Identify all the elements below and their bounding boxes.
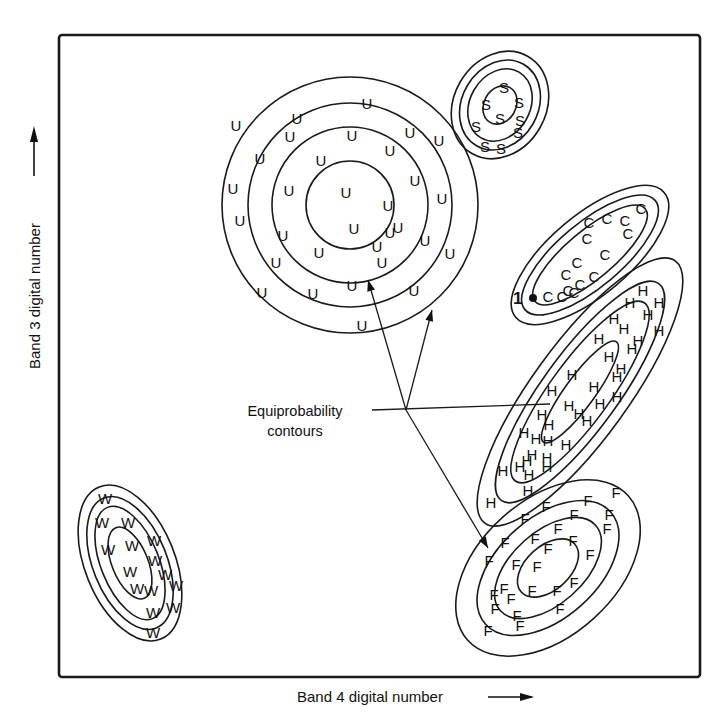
training-point: U <box>284 182 295 199</box>
training-point: F <box>530 530 539 547</box>
training-point: H <box>561 436 572 453</box>
training-point: C <box>572 254 583 271</box>
x-axis-label: Band 4 digital number <box>297 688 443 705</box>
training-point: C <box>563 282 574 299</box>
training-point: U <box>231 117 242 134</box>
training-point: U <box>434 132 445 149</box>
arrowhead-icon <box>367 280 375 292</box>
training-point: U <box>357 317 368 334</box>
training-point: H <box>594 330 605 347</box>
training-point: F <box>553 520 562 537</box>
training-point: F <box>541 498 550 515</box>
training-point: F <box>511 556 520 573</box>
training-point: S <box>471 118 481 135</box>
y-axis-label: Band 3 digital number <box>26 223 43 369</box>
training-point: F <box>490 600 499 617</box>
training-point: U <box>314 244 325 261</box>
training-point: H <box>498 462 509 479</box>
training-point: C <box>623 225 634 242</box>
training-point: F <box>500 534 509 551</box>
training-point: W <box>169 577 184 594</box>
training-point: S <box>481 96 491 113</box>
training-point: H <box>531 430 542 447</box>
training-point: U <box>362 95 373 112</box>
training-point: U <box>278 227 289 244</box>
x-axis-arrow-icon <box>488 693 534 701</box>
training-point: H <box>654 322 665 339</box>
training-point: U <box>410 172 421 189</box>
training-point: F <box>583 492 592 509</box>
x-axis: Band 4 digital number <box>297 688 534 705</box>
training-point: F <box>527 582 536 599</box>
training-point: F <box>515 617 524 634</box>
training-point: W <box>125 537 140 554</box>
cluster-sand: SSSSSSSSS <box>432 34 568 177</box>
training-point: F <box>483 622 492 639</box>
training-point: C <box>561 266 572 283</box>
training-point: C <box>584 214 595 231</box>
training-point: U <box>235 212 246 229</box>
training-point: H <box>604 348 615 365</box>
training-point: U <box>349 220 360 237</box>
training-point: S <box>480 138 490 155</box>
training-point: W <box>123 563 138 580</box>
equiprobability-contour <box>272 127 428 283</box>
training-point: C <box>575 276 586 293</box>
training-point: U <box>372 238 383 255</box>
cluster-water: WWWWWWWWWWWWWWW <box>58 470 203 656</box>
training-point: U <box>292 110 303 127</box>
training-point: H <box>595 395 606 412</box>
training-point: W <box>101 541 116 558</box>
training-point: U <box>308 285 319 302</box>
training-point: U <box>420 232 431 249</box>
training-point: F <box>484 552 493 569</box>
training-point: H <box>627 340 638 357</box>
leader-arrow <box>406 310 432 410</box>
training-point: W <box>146 624 161 641</box>
training-point: F <box>568 532 577 549</box>
training-point: W <box>98 490 113 507</box>
training-point: H <box>542 458 553 475</box>
training-point: H <box>543 432 554 449</box>
training-point: F <box>555 600 564 617</box>
training-point: U <box>257 284 268 301</box>
training-point: S <box>513 124 523 141</box>
training-point: S <box>496 140 506 157</box>
training-point: C <box>589 268 600 285</box>
training-point: H <box>625 294 636 311</box>
training-point: W <box>130 580 145 597</box>
scatter-diagram: UUUUUUUUUUUUUUUUUUUUUUUUUUUUUUUUSSSSSSSS… <box>0 0 724 720</box>
equiprobability-contour <box>476 498 619 637</box>
training-point: F <box>569 574 578 591</box>
training-point: W <box>146 604 161 621</box>
training-point: S <box>495 110 505 127</box>
y-axis: Band 3 digital number <box>26 126 43 369</box>
training-point: W <box>121 514 136 531</box>
annotation-label-line2: contours <box>267 423 323 439</box>
training-point: C <box>543 288 554 305</box>
training-point: U <box>445 245 456 262</box>
training-point: U <box>255 150 266 167</box>
training-point: C <box>582 230 593 247</box>
training-point: W <box>144 582 159 599</box>
y-axis-arrow-icon <box>30 126 38 176</box>
training-point: U <box>393 219 404 236</box>
training-point: U <box>385 142 396 159</box>
training-point: H <box>547 382 558 399</box>
training-point: U <box>316 152 327 169</box>
training-point: C <box>600 246 611 263</box>
training-point: U <box>377 254 388 271</box>
training-point: H <box>612 388 623 405</box>
training-point: H <box>544 416 555 433</box>
cluster-urban: UUUUUUUUUUUUUUUUUUUUUUUUUUUUUUUU <box>222 77 478 334</box>
training-point: F <box>611 484 620 501</box>
training-point: H <box>486 494 497 511</box>
training-point: U <box>405 124 416 141</box>
training-point: F <box>543 540 552 557</box>
arrowhead-icon <box>425 310 433 322</box>
annotation-label-line1: Equiprobability <box>247 403 343 419</box>
training-point: U <box>271 254 282 271</box>
training-point: U <box>285 128 296 145</box>
training-point: H <box>619 320 630 337</box>
training-point: U <box>437 190 448 207</box>
